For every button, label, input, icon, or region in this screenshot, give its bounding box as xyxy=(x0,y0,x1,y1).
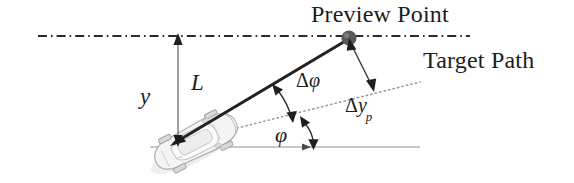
heading-error-phi-glyph: φ xyxy=(309,69,320,91)
lateral-offset-arrowhead-top xyxy=(173,33,182,45)
preview-offset-delta-glyph: Δ xyxy=(345,94,358,116)
reference-line-arrowhead xyxy=(302,143,311,150)
heading-error-arrowhead-upper xyxy=(272,84,283,95)
heading-angle-arrowhead-lower xyxy=(308,139,318,150)
preview-offset-label: Δyp xyxy=(345,95,373,119)
target-path-label: Target Path xyxy=(423,48,534,72)
preview-point-label: Preview Point xyxy=(311,2,449,26)
preview-offset-arrow-line xyxy=(351,44,371,84)
preview-offset-arrowhead-bottom xyxy=(366,79,376,92)
heading-angle-label: φ xyxy=(275,124,287,146)
heading-error-label: Δφ xyxy=(296,70,320,90)
lateral-offset-label: y xyxy=(140,85,150,108)
preview-point-marker-highlight xyxy=(344,33,349,38)
heading-error-delta-glyph: Δ xyxy=(296,69,309,91)
heading-error-arrowhead-lower xyxy=(287,111,297,123)
heading-angle-arrowhead-upper xyxy=(300,116,310,128)
steering-preview-geometry-diagram xyxy=(0,0,574,183)
preview-distance-label: L xyxy=(191,71,204,94)
heading-error-arc xyxy=(277,89,291,116)
preview-offset-subscript: p xyxy=(366,109,373,124)
vehicle xyxy=(140,104,245,183)
